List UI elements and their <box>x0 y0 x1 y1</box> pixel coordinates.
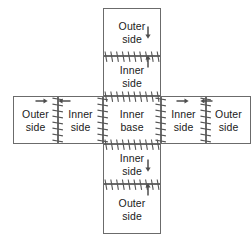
panel-bottom-outer-side: Outer side <box>103 184 161 234</box>
panel-label-right-outer-side: Outer side <box>207 108 250 134</box>
diagram-canvas: Outer sideInner sideOuter sideInner side… <box>0 0 252 242</box>
panel-label-center-inner-base: Inner base <box>104 108 160 134</box>
panel-top-inner-side: Inner side <box>103 56 161 96</box>
panel-label-left-outer-side: Outer side <box>14 108 57 134</box>
panel-bottom-inner-side: Inner side <box>103 144 161 184</box>
panel-left-outer-side: Outer side <box>13 96 58 144</box>
panel-top-outer-side: Outer side <box>103 8 161 56</box>
panel-left-inner-side: Inner side <box>58 96 103 144</box>
panel-label-right-inner-side: Inner side <box>162 108 205 134</box>
panel-label-bottom-inner-side: Inner side <box>104 152 160 178</box>
panel-right-inner-side: Inner side <box>161 96 206 144</box>
panel-right-outer-side: Outer side <box>206 96 251 144</box>
panel-label-bottom-outer-side: Outer side <box>104 197 160 223</box>
panel-label-left-inner-side: Inner side <box>59 108 102 134</box>
panel-label-top-inner-side: Inner side <box>104 64 160 90</box>
panel-center-inner-base: Inner base <box>103 96 161 144</box>
panel-label-top-outer-side: Outer side <box>104 20 160 46</box>
